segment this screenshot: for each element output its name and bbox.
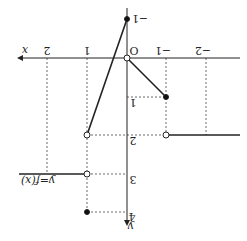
open-point-icon bbox=[124, 55, 130, 61]
closed-point-icon bbox=[125, 17, 130, 22]
y-axis-label: y bbox=[127, 220, 135, 233]
x-tick-label: 1 bbox=[84, 44, 91, 57]
origin-label: O bbox=[129, 44, 138, 57]
open-point-icon bbox=[163, 132, 169, 138]
y-tick-label: 1 bbox=[130, 96, 137, 109]
x-axis-label: x bbox=[21, 44, 28, 57]
y-tick-label: −1 bbox=[132, 12, 148, 25]
y-tick-label: 2 bbox=[130, 134, 137, 147]
x-tick-label: 2 bbox=[44, 44, 51, 57]
function-curve bbox=[19, 19, 240, 174]
x-tick-label: −1 bbox=[155, 44, 171, 57]
function-graph: x 2 1 O −1 −2 −1 1 2 3 4 y y=f(x) bbox=[0, 0, 247, 241]
y-tick-label: 3 bbox=[130, 173, 137, 186]
function-label: y=f(x) bbox=[21, 174, 56, 187]
open-point-icon bbox=[84, 171, 90, 177]
open-point-icon bbox=[84, 132, 90, 138]
closed-point-icon bbox=[164, 95, 169, 100]
closed-point-icon bbox=[85, 210, 90, 215]
x-tick-label: −2 bbox=[195, 44, 211, 57]
